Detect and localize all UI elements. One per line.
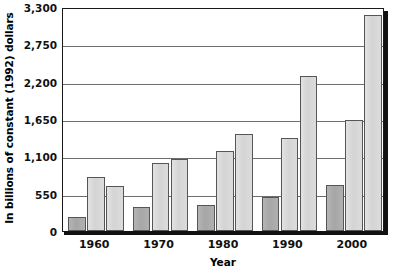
bar — [216, 151, 234, 231]
y-axis-tick-label: 0 — [50, 226, 57, 238]
y-axis-tick-labels: 05501,1001,6502,2002,7503,300 — [18, 0, 60, 240]
x-axis-tick-label: 1970 — [143, 238, 174, 251]
bar — [171, 159, 189, 231]
bar — [133, 207, 151, 231]
y-axis-tick-label: 2,750 — [24, 39, 57, 51]
x-axis-tick-label: 1980 — [208, 238, 239, 251]
bar — [364, 15, 382, 231]
bar — [345, 120, 363, 231]
bar — [235, 134, 253, 231]
y-axis-tick-label: 1,100 — [24, 151, 57, 163]
x-axis-title: Year — [62, 256, 384, 268]
y-axis-title: In billions of constant (1992) dollars — [0, 0, 18, 236]
y-axis-tick-label: 3,300 — [24, 2, 57, 14]
y-axis-tick-label: 550 — [35, 189, 57, 201]
y-axis-title-label: In billions of constant (1992) dollars — [3, 12, 15, 224]
y-axis-tick-label: 1,650 — [24, 114, 57, 126]
bar — [281, 138, 299, 231]
plot-frame-right-edge — [384, 11, 388, 235]
bar — [152, 163, 170, 231]
bar — [87, 177, 105, 231]
x-axis-tick-label: 1960 — [79, 238, 110, 251]
chart-screenshot: In billions of constant (1992) dollars 0… — [0, 0, 401, 274]
x-axis-tick-label: 1990 — [272, 238, 303, 251]
bar — [300, 76, 318, 231]
x-axis-tick-label: 2000 — [336, 238, 367, 251]
x-axis-tick-labels: 19601970198019902000 — [62, 238, 384, 254]
bar — [326, 185, 344, 231]
bar — [197, 205, 215, 231]
y-axis-tick-label: 2,200 — [24, 77, 57, 89]
bar — [106, 186, 124, 231]
bar — [68, 217, 86, 231]
bar — [262, 197, 280, 231]
plot-area — [62, 8, 384, 232]
bars-layer — [63, 9, 383, 231]
plot-frame-bottom-edge — [64, 231, 388, 235]
chart-title — [62, 0, 384, 1]
